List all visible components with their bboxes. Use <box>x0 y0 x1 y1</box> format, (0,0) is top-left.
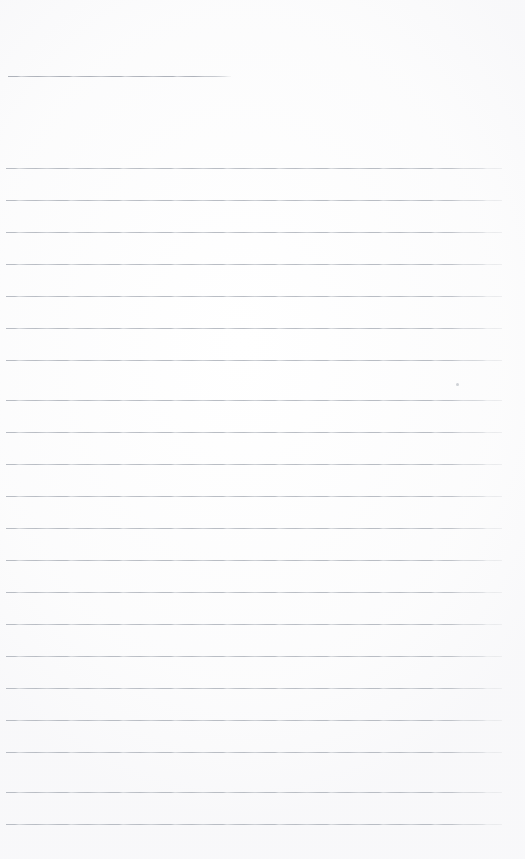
write-line[interactable] <box>6 625 502 656</box>
write-line[interactable] <box>6 761 502 792</box>
scanned-page <box>0 0 525 859</box>
write-line[interactable] <box>6 201 502 232</box>
body-rule <box>6 360 502 361</box>
write-line[interactable] <box>6 793 502 824</box>
write-line[interactable] <box>6 657 502 688</box>
write-line[interactable] <box>6 329 502 360</box>
write-line[interactable] <box>6 137 502 168</box>
write-line[interactable] <box>6 433 502 464</box>
title-write-area[interactable] <box>8 0 231 26</box>
write-line[interactable] <box>6 369 502 400</box>
write-line[interactable] <box>6 561 502 592</box>
write-line[interactable] <box>6 169 502 200</box>
title-rule <box>8 76 231 77</box>
write-line[interactable] <box>6 529 502 560</box>
write-line[interactable] <box>6 297 502 328</box>
write-line[interactable] <box>6 401 502 432</box>
write-line[interactable] <box>6 497 502 528</box>
body-rule <box>6 824 502 825</box>
write-line[interactable] <box>6 233 502 264</box>
write-line[interactable] <box>6 265 502 296</box>
body-rule <box>6 752 502 753</box>
write-line[interactable] <box>6 689 502 720</box>
write-line[interactable] <box>6 465 502 496</box>
write-line[interactable] <box>6 593 502 624</box>
write-line[interactable] <box>6 721 502 752</box>
